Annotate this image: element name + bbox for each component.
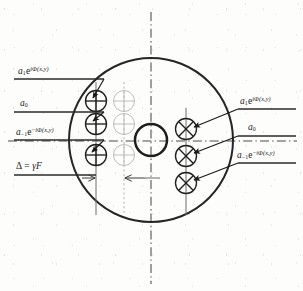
ghost-spot-group — [113, 90, 135, 166]
right-arrow-order-minus1 — [194, 163, 238, 180]
ghost-spot-1 — [113, 90, 135, 112]
ghost-spot-3 — [113, 144, 135, 166]
right-spot-group — [176, 119, 197, 194]
right-order-zero: 0 — [253, 126, 256, 132]
right-label-order-plus1: a1eiΦ(x,y) — [240, 96, 271, 107]
right-exp-body-minus1: iΦ(x,y) — [256, 149, 275, 156]
spot-column-guides — [96, 82, 186, 215]
diagram-svg — [0, 0, 303, 291]
optical-axis-group — [8, 12, 297, 284]
left-exp-body-minus1: iΦ(x,y) — [35, 126, 54, 133]
equals-symbol: = — [24, 161, 29, 171]
left-order-zero: 0 — [25, 102, 28, 108]
right-exp-body-plus1: iΦ(x,y) — [252, 95, 271, 102]
dimension-group — [14, 175, 160, 178]
right-label-order-zero: a0 — [248, 123, 256, 133]
left-spot-group — [85, 90, 107, 166]
focal-length-symbol: F — [36, 161, 42, 171]
left-label-order-zero: a0 — [20, 99, 28, 109]
delta-symbol: Δ — [16, 161, 22, 171]
left-exp-body-plus1: iΦ(x,y) — [30, 65, 49, 72]
left-label-order-minus1: a−1e−iΦ(x,y) — [16, 127, 54, 138]
left-arrow-order-plus1 — [93, 79, 104, 98]
right-label-order-minus1: a−1e−iΦ(x,y) — [237, 150, 275, 161]
dimension-label: Δ = γF — [16, 162, 42, 172]
ghost-spot-2 — [113, 113, 135, 135]
left-label-order-plus1: a1eiΦ(x,y) — [18, 66, 49, 77]
right-leader-group — [194, 109, 296, 180]
left-spot-order-zero — [85, 113, 107, 135]
figure-canvas: a1eiΦ(x,y) a0 a−1e−iΦ(x,y) Δ = γF a1eiΦ(… — [0, 0, 303, 291]
